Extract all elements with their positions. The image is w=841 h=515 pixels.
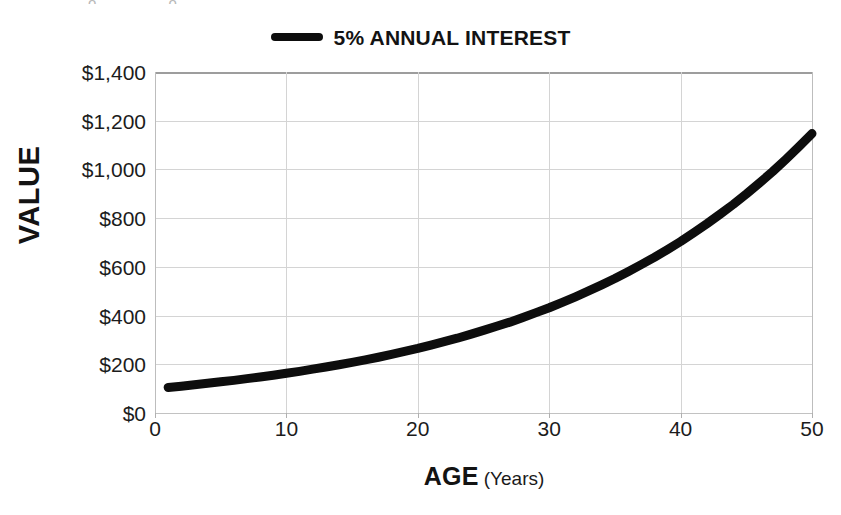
x-axis-tick-label: 40 (641, 418, 721, 439)
data-series-line (155, 72, 812, 413)
y-axis-tick-label: $600 (36, 257, 146, 278)
x-axis-tick-label: 50 (772, 418, 841, 439)
y-axis-tick-label: $200 (36, 354, 146, 375)
x-axis-title-main: AGE (424, 462, 479, 490)
x-axis-title-unit: (Years) (484, 468, 545, 489)
y-axis-tick-label: $400 (36, 306, 146, 327)
y-axis-tick-label: $800 (36, 208, 146, 229)
plot-area (155, 72, 812, 413)
legend-series-label: 5% ANNUAL INTEREST (334, 27, 571, 48)
legend-line-swatch-icon (271, 33, 323, 41)
gridline-horizontal (155, 413, 812, 414)
x-axis-tick-label: 10 (246, 418, 326, 439)
x-axis-title: AGE(Years) (155, 462, 813, 491)
x-axis-tick-label: 0 (115, 418, 195, 439)
y-axis-tick-labels: $0$200$400$600$800$1,000$1,200$1,400 (30, 72, 146, 413)
chart-container: o o 5% ANNUAL INTEREST VALUE $0$200$400$… (0, 0, 841, 515)
x-axis-tick-labels: 01020304050 (155, 418, 812, 452)
y-axis-tick-label: $1,200 (36, 111, 146, 132)
x-axis-tick-label: 20 (378, 418, 458, 439)
y-axis-tick-label: $1,000 (36, 159, 146, 180)
chart-legend: 5% ANNUAL INTEREST (0, 20, 841, 54)
x-axis-tick-label: 30 (509, 418, 589, 439)
top-edge-text-fragment: o o (88, 0, 308, 4)
gridline-vertical (812, 72, 813, 413)
y-axis-tick-label: $1,400 (36, 62, 146, 83)
